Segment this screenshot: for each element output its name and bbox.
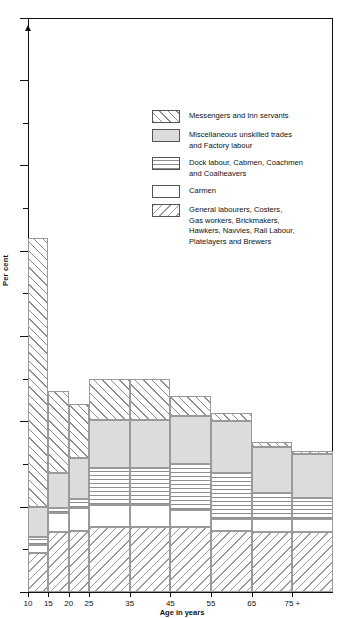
y-axis-tick-label-wrap: 0 (0, 592, 28, 593)
legend-swatch-icon (152, 157, 180, 170)
bar-segment (252, 447, 293, 493)
bar-segment (292, 451, 333, 454)
y-axis-tick-label-wrap: 5 (0, 549, 28, 550)
x-axis-tick-label: 25 (85, 599, 94, 609)
bar-segment (211, 473, 252, 519)
bar-segment (28, 537, 48, 545)
y-axis-tick-label-wrap: 45 (0, 208, 28, 209)
bar-20-25 (69, 18, 89, 592)
x-axis-tick (28, 592, 29, 597)
bar-segment (252, 442, 293, 447)
y-axis-tick-label-wrap: 55 (0, 123, 28, 124)
x-axis-tick (292, 592, 293, 597)
chart-legend: Messengers and Inn servantsMiscellaneous… (152, 110, 332, 253)
legend-item: Carmen (152, 185, 332, 198)
x-axis-tick (130, 592, 131, 597)
legend-item: Dock labour, Cabmen, Coachmenand Coalhea… (152, 157, 332, 179)
bar-segment (252, 532, 293, 592)
bar-segment (89, 468, 130, 505)
bar-segment (211, 413, 252, 422)
bar-segment (69, 404, 89, 458)
x-axis-tick (170, 592, 171, 597)
bar-segment (292, 519, 333, 533)
bar-segment (69, 458, 89, 499)
legend-swatch-icon (152, 204, 180, 217)
bar-segment (130, 505, 171, 527)
bar-segment (170, 416, 211, 464)
legend-item: Messengers and Inn servants (152, 110, 332, 123)
y-axis-tick-label-wrap: 35 (0, 293, 28, 294)
bar-segment (252, 519, 293, 533)
bar-segment (69, 499, 89, 508)
legend-item-label: Messengers and Inn servants (189, 110, 289, 122)
bar-segment (28, 238, 48, 507)
bar-65-75 (252, 18, 293, 592)
y-axis-tick-label-wrap: 50 (0, 165, 28, 166)
y-axis-tick-label-wrap: 25 (0, 379, 28, 380)
x-axis-title: Age in years (160, 608, 205, 617)
bar-55-65 (211, 18, 252, 592)
bar-segment (48, 391, 68, 472)
legend-item-label: General labourers, Costers,Gas workers, … (189, 204, 295, 247)
bar-segment (48, 532, 68, 592)
bar-segment (48, 473, 68, 508)
bar-25-35 (89, 18, 130, 592)
x-axis-tick-label: 55 (207, 599, 216, 609)
bar-segment (130, 468, 171, 505)
y-axis-tick-label-wrap: 20 (0, 421, 28, 422)
bar-segment (28, 507, 48, 538)
x-axis-tick-label: 20 (64, 599, 73, 609)
bar-segment (211, 421, 252, 472)
legend-item-label: Miscellaneous unskilled tradesand Factor… (189, 129, 292, 151)
bar-segment (130, 379, 171, 420)
bar-segment (170, 527, 211, 592)
bar-segment (89, 527, 130, 592)
bar-segment (48, 513, 68, 533)
x-axis-tick-label: 15 (44, 599, 53, 609)
bar-segment (292, 532, 333, 592)
bar-segment (69, 508, 89, 530)
x-axis-tick (211, 592, 212, 597)
y-axis-title: Per cent (1, 255, 10, 286)
y-axis-tick-label-wrap: 15 (0, 464, 28, 465)
y-axis-tick-label-wrap: 100 (0, 18, 28, 19)
bar-segment (28, 553, 48, 592)
x-axis-tick (252, 592, 253, 597)
y-axis-tick-label-wrap: 40 (0, 251, 28, 252)
legend-swatch-icon (152, 129, 180, 142)
bar-segment (89, 379, 130, 420)
y-axis-tick-label-wrap: 10 (0, 507, 28, 508)
x-axis-tick-label: 75 + (284, 599, 300, 609)
bar-15-20 (48, 18, 68, 592)
bar-45-55 (170, 18, 211, 592)
legend-item: Miscellaneous unskilled tradesand Factor… (152, 129, 332, 151)
bar-segment (252, 493, 293, 519)
bar-segment (211, 519, 252, 531)
bar-segment (170, 464, 211, 510)
legend-swatch-icon (152, 110, 180, 123)
bar-segment (48, 508, 68, 513)
x-axis-tick-label: 10 (24, 599, 33, 609)
bar-segment (292, 454, 333, 498)
bar-segment (130, 420, 171, 469)
legend-item-label: Dock labour, Cabmen, Coachmenand Coalhea… (189, 157, 303, 179)
bar-75-+ (292, 18, 333, 592)
x-axis-tick (48, 592, 49, 597)
x-axis-tick-label: 65 (247, 599, 256, 609)
bar-segment (69, 531, 89, 592)
bar-segment (130, 527, 171, 592)
bar-segment (89, 420, 130, 469)
y-axis-tick-label-wrap: 30 (0, 336, 28, 337)
bar-segment (170, 510, 211, 527)
x-axis-tick-label: 35 (125, 599, 134, 609)
percent-by-age-stacked-bar-chart: 051015202530354045505560100 101520253545… (0, 0, 341, 618)
bar-segment (292, 498, 333, 518)
legend-swatch-icon (152, 185, 180, 198)
bar-segment (211, 531, 252, 592)
legend-item: General labourers, Costers,Gas workers, … (152, 204, 332, 247)
legend-item-label: Carmen (189, 185, 216, 197)
bar-10-15 (28, 18, 48, 592)
bar-segment (28, 545, 48, 553)
bar-segment (89, 505, 130, 527)
x-axis-tick (69, 592, 70, 597)
